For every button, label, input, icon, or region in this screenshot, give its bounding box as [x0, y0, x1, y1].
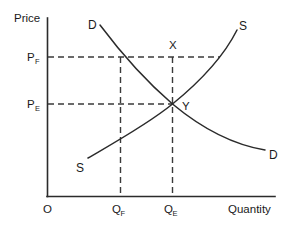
- origin-label: O: [43, 203, 52, 215]
- price-floor-subscript: F: [35, 57, 40, 66]
- reference-lines-group: [48, 57, 220, 196]
- quantity-floor-tick-label: Q F: [112, 203, 126, 218]
- point-label-x: X: [169, 39, 177, 51]
- point-label-y: Y: [182, 100, 190, 112]
- equilibrium-price-subscript: E: [35, 104, 40, 113]
- demand-curve-label-bottom: D: [269, 148, 278, 162]
- supply-demand-diagram: Price Quantity O P F P E Q F Q E D D S S…: [0, 0, 294, 231]
- equilibrium-price-tick-label: P E: [27, 98, 40, 113]
- price-floor-base: P: [27, 51, 35, 63]
- x-axis-label: Quantity: [228, 203, 271, 215]
- supply-curve-label-top: S: [239, 19, 247, 33]
- equilibrium-quantity-tick-label: Q E: [164, 203, 178, 218]
- supply-curve-label-bottom: S: [76, 161, 84, 175]
- equilibrium-price-base: P: [27, 98, 35, 110]
- price-floor-tick-label: P F: [27, 51, 40, 66]
- y-axis-label: Price: [14, 12, 40, 24]
- supply-curve: [88, 30, 237, 158]
- equilibrium-quantity-subscript: E: [173, 209, 178, 218]
- demand-curve: [100, 25, 265, 150]
- diagram-canvas: Price Quantity O P F P E Q F Q E D D S S…: [0, 0, 294, 231]
- demand-curve-label-top: D: [88, 18, 97, 32]
- quantity-floor-subscript: F: [121, 209, 126, 218]
